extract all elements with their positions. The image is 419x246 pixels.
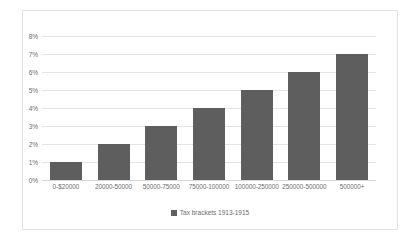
y-axis-tick-label: 8% bbox=[29, 33, 38, 40]
bar[interactable] bbox=[98, 144, 130, 180]
chart-legend: Tax brackets 1913-1915 bbox=[23, 209, 397, 216]
x-axis-tick-label: 500000+ bbox=[328, 183, 376, 191]
x-axis-tick-label: 20000-50000 bbox=[90, 183, 138, 191]
y-axis-tick-label: 5% bbox=[29, 87, 38, 94]
x-axis-labels-group: 0-$2000020000-5000050000-7500075000-1000… bbox=[42, 183, 376, 209]
x-axis-tick-label: 75000-100000 bbox=[185, 183, 233, 191]
x-axis-tick-label: 250000-500000 bbox=[281, 183, 329, 191]
bar-slot bbox=[233, 36, 281, 180]
x-axis-tick-label: 50000-75000 bbox=[137, 183, 185, 191]
bar[interactable] bbox=[50, 162, 82, 180]
legend-series-label: Tax brackets 1913-1915 bbox=[180, 209, 249, 216]
bar-slot bbox=[328, 36, 376, 180]
y-axis-tick-label: 6% bbox=[29, 69, 38, 76]
bar-slot bbox=[281, 36, 329, 180]
bar[interactable] bbox=[145, 126, 177, 180]
bars-group bbox=[42, 36, 376, 180]
y-axis-tick-label: 2% bbox=[29, 141, 38, 148]
gridline-0pct: 0% bbox=[42, 180, 376, 181]
bar-slot bbox=[42, 36, 90, 180]
bar[interactable] bbox=[241, 90, 273, 180]
y-axis-tick-label: 3% bbox=[29, 123, 38, 130]
legend-color-swatch bbox=[171, 210, 177, 216]
y-axis-tick-label: 7% bbox=[29, 51, 38, 58]
bar-slot bbox=[137, 36, 185, 180]
bar[interactable] bbox=[336, 54, 368, 180]
bar-slot bbox=[90, 36, 138, 180]
bar-slot bbox=[185, 36, 233, 180]
x-axis-tick-label: 100000-250000 bbox=[233, 183, 281, 191]
plot-area: 0%1%2%3%4%5%6%7%8% bbox=[42, 36, 376, 180]
x-axis-tick-label: 0-$20000 bbox=[42, 183, 90, 191]
y-axis-tick-label: 0% bbox=[29, 177, 38, 184]
bar[interactable] bbox=[288, 72, 320, 180]
bar-chart-figure: 0%1%2%3%4%5%6%7%8% 0-$2000020000-5000050… bbox=[22, 10, 398, 230]
bar[interactable] bbox=[193, 108, 225, 180]
y-axis-tick-label: 1% bbox=[29, 159, 38, 166]
y-axis-tick-label: 4% bbox=[29, 105, 38, 112]
